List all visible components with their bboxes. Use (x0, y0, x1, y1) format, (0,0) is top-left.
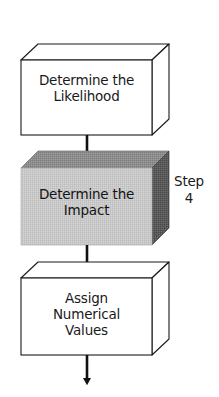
node-determine-impact[interactable] (21, 151, 169, 245)
step-annotation: Step 4 (163, 173, 215, 207)
node-likelihood-top-face (21, 44, 169, 60)
node-determine-likelihood[interactable] (21, 44, 169, 135)
node-assign-numerical-values[interactable] (21, 262, 169, 355)
node-assign-side-face (152, 262, 169, 355)
step-annotation-line-1: Step (163, 173, 215, 190)
step-annotation-number: 4 (163, 190, 215, 207)
node-assign-front-face (21, 278, 152, 355)
diagram-canvas: Determine the Likelihood Determine the I… (0, 0, 219, 397)
node-impact-front-face (21, 168, 152, 245)
node-impact-top-face (21, 151, 169, 168)
node-likelihood-front-face (21, 60, 152, 135)
node-assign-top-face (21, 262, 169, 278)
node-likelihood-side-face (152, 44, 169, 135)
